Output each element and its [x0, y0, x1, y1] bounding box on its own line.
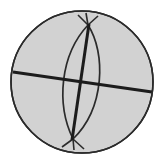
sphere-diagram: [0, 0, 164, 163]
figure-container: [0, 0, 164, 163]
south-pole-tick-down: [73, 139, 74, 150]
